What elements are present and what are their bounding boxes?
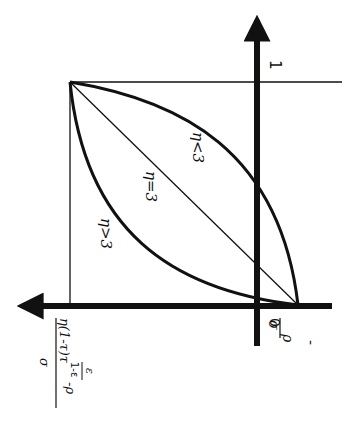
- rho-numerator: ρ: [280, 333, 296, 343]
- left-label-exponent-den: 1-ε: [69, 362, 80, 377]
- left-label-exponent-num: ε: [83, 368, 96, 374]
- left-label-prefix: η(1-τ)τ: [57, 318, 72, 364]
- rho-over-sigma-label: ρ σ: [266, 318, 296, 343]
- left-label-denominator: σ: [37, 358, 52, 368]
- left-label-numerator-suffix: -ρ: [63, 382, 78, 394]
- sigma-denominator: σ: [266, 320, 282, 330]
- label-eta-less-3: η<3: [189, 132, 207, 163]
- minus-sign: -: [303, 340, 319, 345]
- vertical-axis-top-label: 1: [266, 60, 284, 70]
- diagram-canvas: η<3 η=3 η>3 1 0 ρ σ - -ρ ε 1-ε η(1-τ)τ σ: [0, 0, 352, 442]
- left-axis-label: -ρ ε 1-ε η(1-τ)τ σ: [37, 318, 96, 408]
- label-eta-equal-3: η=3: [142, 171, 160, 202]
- label-eta-greater-3: η>3: [97, 218, 115, 249]
